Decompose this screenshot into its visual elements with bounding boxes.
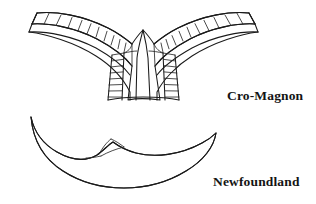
cro-magnon-drawing xyxy=(29,13,258,100)
cro-magnon-right-ladder-rail-inner xyxy=(163,53,165,100)
cro-magnon-left-ladder-rail-outer xyxy=(108,55,112,100)
figure-root: Cro-Magnon Newfoundland xyxy=(0,0,316,204)
specimen-label-cro-magnon: Cro-Magnon xyxy=(227,89,303,103)
cro-magnon-right-tip-cap-lower xyxy=(255,24,258,32)
newfoundland-drawing xyxy=(31,117,216,188)
cro-magnon-body-outline xyxy=(32,13,255,100)
cro-magnon-right-ladder-rail-outer xyxy=(175,55,179,100)
cro-magnon-left-tip-cap-lower xyxy=(29,24,32,32)
specimen-label-newfoundland: Newfoundland xyxy=(213,175,300,189)
cro-magnon-left-ladder-rail-inner xyxy=(122,53,124,100)
